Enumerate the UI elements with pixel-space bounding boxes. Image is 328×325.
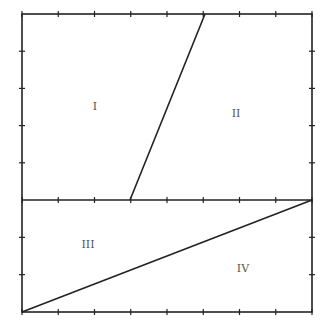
- lower-diagonal-line: [22, 200, 312, 312]
- region-label-i: I: [93, 101, 97, 112]
- region-label-iv: IV: [237, 263, 249, 274]
- upper-slant-segment: [130, 14, 205, 200]
- region-label-iii: III: [81, 239, 94, 250]
- geometric-diagram: [0, 0, 328, 325]
- outer-rectangle: [22, 14, 312, 312]
- region-label-ii: II: [232, 108, 241, 119]
- tick-marks: [19, 11, 315, 315]
